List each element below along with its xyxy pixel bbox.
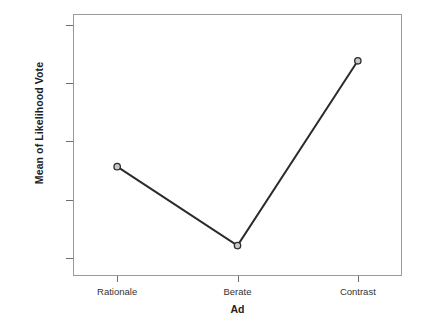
- y-axis-tick-mark: [66, 83, 73, 84]
- profile-plot-chart: Mean of Likelihood Vote 40.0050.0060.007…: [0, 0, 426, 327]
- x-axis-tick-label: Berate: [178, 286, 298, 297]
- x-axis-tick-label: Contrast: [298, 286, 418, 297]
- x-axis-title: Ad: [73, 303, 402, 315]
- y-axis-tick-mark: [66, 258, 73, 259]
- y-axis-tick-mark: [66, 141, 73, 142]
- y-axis-title: Mean of Likelihood Vote: [33, 23, 45, 223]
- x-axis-tick-mark: [358, 276, 359, 282]
- x-axis-tick-label: Rationale: [57, 286, 177, 297]
- x-axis-tick-mark: [117, 276, 118, 282]
- y-axis-tick-mark: [66, 200, 73, 201]
- x-axis-tick-mark: [238, 276, 239, 282]
- y-axis-tick-mark: [66, 25, 73, 26]
- plot-area: [73, 14, 402, 276]
